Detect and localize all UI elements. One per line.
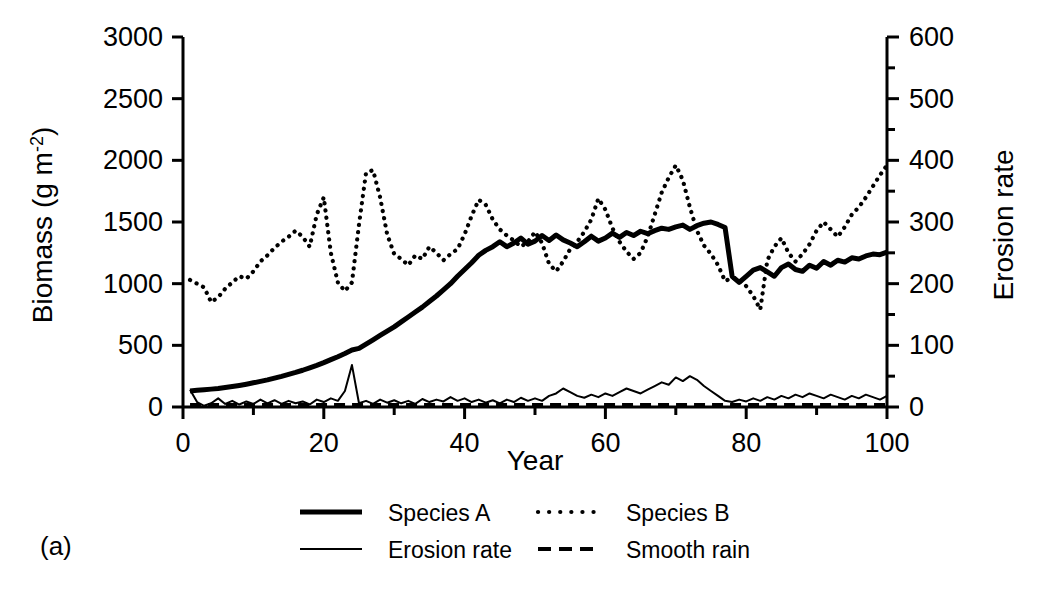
legend-label-species-b: Species B [626, 500, 730, 526]
y-right-tick-label: 100 [909, 330, 954, 360]
y-right-tick-label: 600 [909, 22, 954, 52]
panel-label: (a) [40, 531, 72, 561]
y-left-axis-title-tail: ) [27, 127, 58, 136]
legend-label-smooth-rain: Smooth rain [626, 537, 750, 563]
y-left-tick-label: 0 [148, 392, 163, 422]
x-tick-label: 0 [175, 428, 190, 458]
legend-label-erosion-rate: Erosion rate [388, 537, 512, 563]
chart-canvas: 050010001500200025003000 010020030040050… [0, 0, 1053, 605]
y-right-tick-label: 500 [909, 84, 954, 114]
x-tick-label: 100 [864, 428, 909, 458]
x-axis-title: Year [507, 445, 564, 476]
y-right-tick-label: 0 [909, 392, 924, 422]
figure-panel-a: 050010001500200025003000 010020030040050… [0, 0, 1053, 605]
x-tick-label: 20 [309, 428, 339, 458]
y-right-axis-title: Erosion rate [988, 150, 1019, 301]
x-tick-label: 40 [450, 428, 480, 458]
legend-label-species-a: Species A [388, 500, 491, 526]
y-right-tick-label: 400 [909, 145, 954, 175]
y-right-tick-label: 300 [909, 207, 954, 237]
x-tick-label: 80 [731, 428, 761, 458]
y-left-axis-title: Biomass (g m-2) [27, 127, 58, 324]
x-tick-label: 60 [590, 428, 620, 458]
y-right-tick-label: 200 [909, 269, 954, 299]
y-left-tick-label: 2500 [103, 84, 163, 114]
y-left-axis-title-superscript: -2 [27, 136, 47, 152]
y-left-tick-label: 2000 [103, 145, 163, 175]
y-left-tick-label: 500 [118, 330, 163, 360]
y-left-tick-label: 1500 [103, 207, 163, 237]
y-left-axis-title-main: Biomass (g m [27, 152, 58, 323]
y-left-tick-label: 3000 [103, 22, 163, 52]
y-left-tick-label: 1000 [103, 269, 163, 299]
